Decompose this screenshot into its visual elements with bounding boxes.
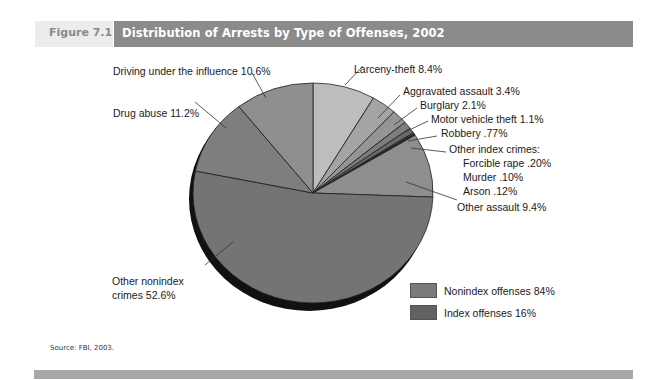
label-drug-abuse: Drug abuse 11.2%: [113, 107, 199, 120]
label-burglary: Burglary 2.1%: [420, 99, 486, 112]
bottom-rule: [34, 370, 633, 379]
label-robbery: Robbery .77%: [441, 127, 508, 140]
label-other-nonindex-line1: Other nonindex: [112, 275, 184, 288]
label-other-assault: Other assault 9.4%: [457, 201, 546, 214]
legend-label-index: Index offenses 16%: [444, 307, 536, 319]
legend-swatch-index: [410, 305, 437, 320]
label-murder: Murder .10%: [463, 171, 523, 184]
source-note: Source: FBI, 2003.: [50, 344, 114, 352]
label-motor-vehicle-theft: Motor vehicle theft 1.1%: [431, 113, 544, 126]
pie-chart: [0, 0, 662, 380]
legend-label-nonindex: Nonindex offenses 84%: [444, 285, 555, 297]
label-larceny: Larceny-theft 8.4%: [354, 63, 442, 76]
legend-swatch-nonindex: [410, 283, 437, 298]
label-aggravated-assault: Aggravated assault 3.4%: [403, 85, 520, 98]
label-other-nonindex-line2: crimes 52.6%: [112, 289, 176, 302]
label-other-index-header: Other index crimes:: [449, 143, 540, 156]
pie-slices: [193, 83, 433, 303]
label-forcible-rape: Forcible rape .20%: [463, 157, 551, 170]
label-dui: Driving under the influence 10.6%: [113, 65, 271, 78]
label-arson: Arson .12%: [463, 185, 517, 198]
